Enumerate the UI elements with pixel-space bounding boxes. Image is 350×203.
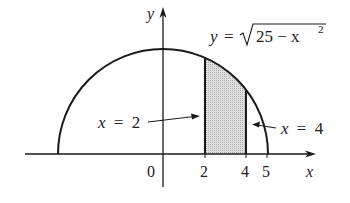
annotation-x-2-eq: =: [114, 113, 124, 132]
annotation-x-2-val: 2: [132, 113, 141, 132]
arrow-line-x-2: [148, 117, 194, 123]
shaded-region: [205, 58, 246, 154]
annotation-x-2-var: x: [97, 113, 106, 132]
equation-equals: =: [224, 27, 234, 46]
tick-label-2: 2: [200, 163, 208, 180]
x-axis-label: x: [305, 163, 313, 180]
arrow-head-x-4-icon: [252, 122, 260, 128]
annotation-x-4-val: 4: [315, 119, 324, 138]
annotation-x-2: x = 2: [97, 113, 200, 132]
svg-text:x = 4: x = 4: [280, 119, 324, 138]
origin-label: 0: [147, 163, 155, 180]
y-axis-label: y: [145, 5, 155, 23]
svg-text:x = 2: x = 2: [97, 113, 140, 132]
arrow-line-x-4: [257, 125, 276, 128]
tick-label-4: 4: [241, 163, 249, 180]
annotation-x-4-var: x: [280, 119, 289, 138]
equation-lhs: y: [208, 27, 218, 46]
equation-radicand: 25 − x: [256, 27, 300, 46]
equation-exponent: 2: [318, 23, 324, 35]
equation-label: y = 25 − x 2: [208, 23, 326, 46]
annotation-x-4-eq: =: [297, 119, 307, 138]
tick-label-5: 5: [262, 163, 270, 180]
arrow-head-x-2-icon: [191, 114, 200, 120]
semicircle-area-diagram: y x 0 2 4 5 y = 25 − x 2 x = 2 x = 4: [0, 0, 350, 203]
